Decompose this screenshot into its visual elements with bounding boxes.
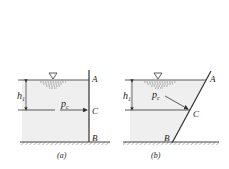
- water-body: [22, 80, 89, 142]
- point-a-label: A: [209, 74, 216, 84]
- panel-a: h1 pc A C B (a): [17, 70, 110, 160]
- point-c-label: C: [92, 106, 99, 116]
- point-b-label: B: [164, 133, 170, 143]
- panel-b: h1 pc A C B (b): [123, 71, 219, 160]
- free-surface-triangle-icon: [49, 73, 57, 79]
- depth-label: h1: [123, 90, 131, 102]
- hydrostatic-pressure-diagram: h1 pc A C B (a) h1 pc A C B: [0, 0, 229, 169]
- point-c-label: C: [193, 109, 200, 119]
- point-a-label: A: [91, 74, 98, 84]
- caption-b: (b): [151, 151, 161, 160]
- caption-a: (a): [57, 151, 67, 160]
- free-surface-triangle-icon: [154, 73, 162, 79]
- point-b-label: B: [92, 133, 98, 143]
